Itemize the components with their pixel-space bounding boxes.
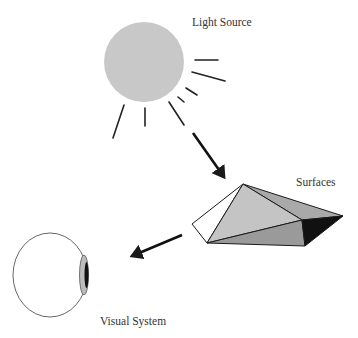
light-perception-diagram: Light Source Surfaces Visual System	[0, 0, 358, 338]
surfaces-polyhedron: Surfaces	[192, 176, 343, 246]
pupil-icon	[85, 262, 89, 288]
arrow-light-to-surface	[193, 133, 224, 177]
light-source-label: Light Source	[192, 16, 252, 29]
face-dark	[302, 216, 343, 246]
sun-icon	[104, 22, 184, 102]
visual-system: Visual System	[13, 233, 166, 328]
surfaces-label: Surfaces	[296, 176, 336, 188]
eyeball-icon	[13, 233, 87, 317]
light-source: Light Source	[104, 16, 252, 138]
arrow-surface-to-eye	[132, 235, 182, 256]
visual-system-label: Visual System	[100, 315, 166, 328]
